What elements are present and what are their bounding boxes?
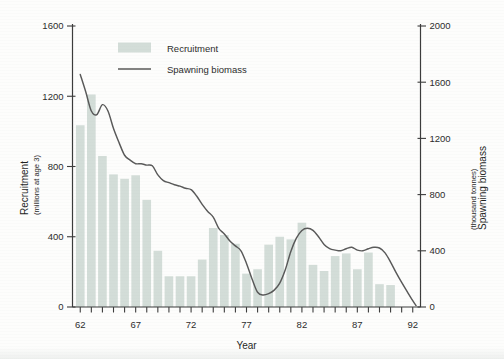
legend-label-recruitment: Recruitment — [167, 43, 219, 54]
bar-recruitment-84 — [320, 271, 329, 307]
bar-recruitment-89 — [375, 284, 384, 307]
bar-recruitment-73 — [198, 260, 207, 307]
bar-recruitment-75 — [220, 235, 229, 307]
left-axis-tick-label-1600: 1600 — [42, 20, 63, 31]
bar-recruitment-69 — [154, 251, 163, 307]
bar-recruitment-65 — [109, 174, 118, 307]
left-axis-tick-label-1200: 1200 — [42, 91, 63, 102]
bar-recruitment-87 — [353, 269, 362, 307]
right-axis-tick-label-1200: 1200 — [430, 133, 451, 144]
legend-label-spawning-biomass: Spawning biomass — [167, 64, 247, 75]
bar-recruitment-77 — [242, 274, 251, 307]
right-axis-tick-label-2000: 2000 — [430, 20, 451, 31]
bar-recruitment-72 — [187, 276, 196, 307]
x-axis-tick-label-92: 92 — [407, 319, 418, 330]
left-axis-title-units: (millions at age 3) — [32, 155, 41, 215]
bar-recruitment-76 — [231, 244, 240, 307]
bar-recruitment-68 — [142, 200, 151, 307]
bar-recruitment-79 — [264, 245, 273, 307]
bar-recruitment-71 — [176, 276, 185, 307]
right-axis-tick-label-1600: 1600 — [430, 77, 451, 88]
bar-recruitment-70 — [165, 276, 174, 307]
bar-recruitment-86 — [342, 253, 351, 307]
scan-edge-shadow — [0, 347, 504, 359]
left-axis-title: Recruitment — [19, 161, 30, 215]
bar-recruitment-80 — [275, 237, 284, 307]
right-axis-tick-label-0: 0 — [430, 301, 435, 312]
right-axis-tick-label-400: 400 — [430, 245, 446, 256]
x-axis-tick-label-62: 62 — [75, 319, 86, 330]
right-axis-title-units: (thousand tonnes) — [469, 168, 478, 230]
legend-swatch-recruitment — [118, 43, 151, 53]
chart-canvas: 0400800120016000400800120016002000626772… — [0, 0, 504, 359]
left-axis-tick-label-400: 400 — [48, 231, 64, 242]
left-axis-tick-label-800: 800 — [48, 161, 64, 172]
bar-recruitment-66 — [120, 179, 129, 307]
right-axis-title: Spawning biomass — [477, 146, 488, 230]
chart-figure: 0400800120016000400800120016002000626772… — [0, 0, 504, 359]
bar-recruitment-83 — [309, 265, 318, 307]
bar-recruitment-64 — [98, 156, 107, 307]
bar-recruitment-63 — [87, 94, 96, 307]
bar-recruitment-88 — [364, 253, 373, 307]
x-axis-tick-label-77: 77 — [241, 319, 252, 330]
x-axis-tick-label-87: 87 — [352, 319, 363, 330]
left-axis-tick-label-0: 0 — [58, 301, 63, 312]
x-axis-tick-label-82: 82 — [297, 319, 308, 330]
bar-recruitment-74 — [209, 228, 218, 307]
bar-recruitment-82 — [298, 223, 307, 307]
bar-recruitment-90 — [386, 285, 395, 307]
bar-recruitment-78 — [253, 269, 262, 307]
bar-recruitment-67 — [131, 175, 140, 307]
bar-recruitment-85 — [331, 256, 340, 307]
bar-recruitment-62 — [76, 125, 85, 307]
x-axis-tick-label-67: 67 — [130, 319, 141, 330]
x-axis-tick-label-72: 72 — [186, 319, 197, 330]
right-axis-tick-label-800: 800 — [430, 189, 446, 200]
